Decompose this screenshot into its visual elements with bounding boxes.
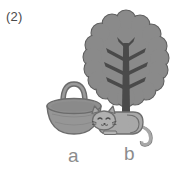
illustration-panel: (2) bbox=[0, 0, 172, 171]
cat-icon bbox=[92, 106, 152, 146]
label-a: a bbox=[68, 146, 79, 165]
label-b: b bbox=[124, 144, 135, 163]
scene-artwork bbox=[0, 0, 172, 171]
